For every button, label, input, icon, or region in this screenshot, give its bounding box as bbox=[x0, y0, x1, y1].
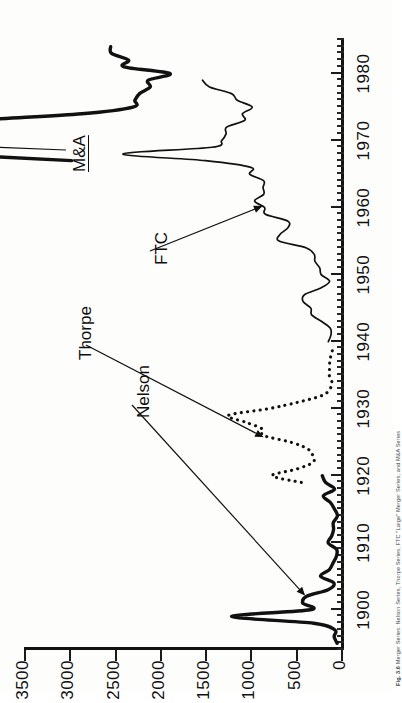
value-axis-label: 1500 bbox=[194, 660, 214, 703]
series-ftc-curve bbox=[123, 80, 331, 341]
caption-text: Merger Series: Nelson Series, Thorpe Ser… bbox=[395, 431, 401, 665]
plot-area: 0500100015002000250030003500 19001910192… bbox=[24, 40, 344, 650]
value-axis-label: 500 bbox=[285, 660, 305, 703]
year-axis-label: 1980 bbox=[354, 42, 374, 106]
value-axis-label: 2000 bbox=[149, 660, 169, 703]
year-axis-label: 1900 bbox=[354, 578, 374, 642]
thorpe-label: Thorpe bbox=[76, 306, 96, 360]
value-axis-label: 3000 bbox=[58, 660, 78, 703]
value-axis-label: 1000 bbox=[239, 660, 259, 703]
nelson-label: Nelson bbox=[134, 365, 154, 418]
series-thorpe-curve bbox=[228, 348, 334, 482]
year-axis-label: 1950 bbox=[354, 243, 374, 307]
year-axis-label: 1960 bbox=[354, 176, 374, 240]
ftc-label: FTC bbox=[152, 232, 172, 265]
series-curves bbox=[24, 40, 344, 650]
year-axis-label: 1910 bbox=[354, 511, 374, 575]
thorpe-leader bbox=[86, 345, 262, 436]
caption-label: Fig. 3.6 bbox=[395, 666, 401, 686]
chart-stage: 0500100015002000250030003500 19001910192… bbox=[16, 16, 376, 676]
year-axis-label: 1920 bbox=[354, 444, 374, 508]
ma-label: M&A bbox=[70, 135, 90, 172]
year-axis-label: 1940 bbox=[354, 310, 374, 374]
ftc-leader-arrowhead bbox=[254, 206, 261, 211]
value-axis-label: 0 bbox=[330, 660, 350, 703]
nelson-leader bbox=[132, 405, 304, 594]
year-axis-label: 1970 bbox=[354, 109, 374, 173]
value-axis-label: 2500 bbox=[104, 660, 124, 703]
series-nelson-curve bbox=[232, 476, 338, 644]
value-axis-label: 3500 bbox=[13, 660, 33, 703]
figure-caption: Fig. 3.6 Merger Series: Nelson Series, T… bbox=[392, 0, 402, 686]
year-axis-label: 1930 bbox=[354, 377, 374, 441]
ma-leader bbox=[0, 140, 66, 150]
